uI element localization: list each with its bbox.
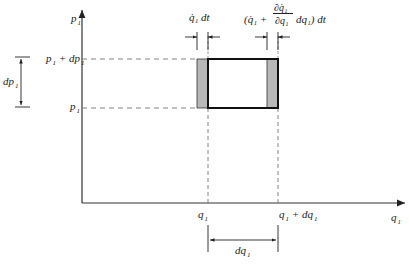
outflow-strip [267, 59, 278, 108]
inflow-strip [197, 59, 208, 108]
outflow-label-numerator: ∂q̇₁ [274, 2, 287, 13]
tick-label-p1: p1 [70, 101, 80, 114]
outflow-label-denominator: ∂q₁ [275, 15, 288, 26]
dp-label: dp1 [3, 76, 19, 89]
tick-label-q1-plus-dq1: q1 + dq1 [279, 209, 317, 222]
x-axis-label: q1 [391, 212, 401, 225]
outflow-label-close: dq₁) dt [296, 14, 326, 25]
outflow-label-open: (q̇₁ + [244, 14, 267, 25]
dq-label: dq1 [235, 245, 251, 258]
y-axis-label: p1 [71, 13, 81, 26]
tick-label-q1: q1 [198, 209, 208, 222]
tick-label-p1-plus-dp1: p1 + dp1 [46, 53, 84, 66]
inflow-label: q̇₁ dt [189, 12, 210, 23]
phase-space-diagram [0, 0, 409, 264]
fraction-bar [273, 13, 293, 14]
